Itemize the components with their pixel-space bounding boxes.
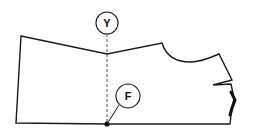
leader-line-f [107, 105, 119, 124]
point-f-marker [104, 121, 109, 126]
label-f: F [125, 90, 132, 102]
label-y: Y [103, 17, 111, 29]
pattern-diagram: Y F [0, 0, 255, 135]
bold-seam-segment [230, 92, 235, 115]
pattern-outline [16, 36, 234, 124]
